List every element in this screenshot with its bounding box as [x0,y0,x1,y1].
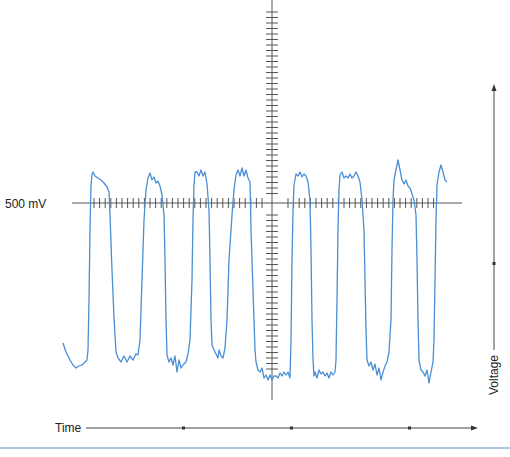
time-axis-label: Time [55,421,82,435]
time-arrow-head-icon [471,426,478,431]
voltage-arrow-head-icon [492,84,497,91]
time-axis-marker-1 [182,427,185,430]
voltage-axis-label: Voltage [487,355,501,395]
voltage-axis-midpoint-marker [493,262,496,265]
oscilloscope-chart: 500 mV Voltage Time [0,0,510,457]
reference-label: 500 mV [5,197,46,211]
time-axis-marker-3 [408,427,411,430]
bottom-divider [0,447,510,449]
waveform-line [63,160,447,383]
time-axis-marker-2 [290,427,293,430]
